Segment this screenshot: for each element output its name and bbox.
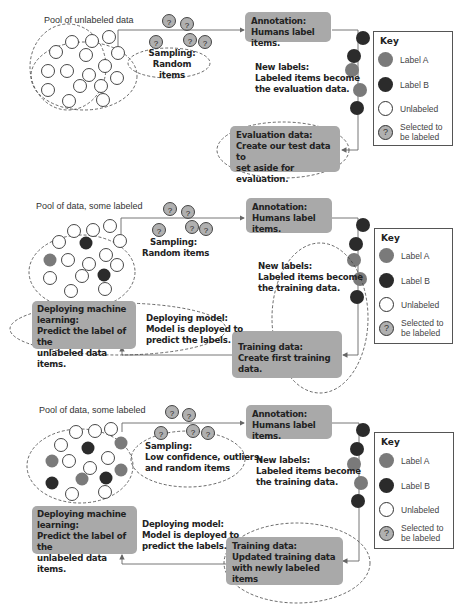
evaluation-title: Evaluation data: [236, 130, 334, 141]
selected-items: ? ? ? ? ? [155, 406, 215, 440]
svg-text:?: ? [167, 18, 172, 27]
new-labels-line2: the evaluation data. [255, 84, 360, 95]
new-labels-text: New labels: Labeled items become the tra… [258, 261, 363, 294]
svg-text:?: ? [154, 39, 159, 48]
deploy-model-text: Deploying model: Model is deployed to pr… [142, 519, 239, 552]
key-item-selected: ?Selected tobe labeled [378, 122, 443, 142]
new-labels-text: New labels: Labeled items become the tra… [256, 455, 361, 488]
sampling-title: Sampling: [142, 48, 202, 59]
label-b-icon [379, 478, 394, 493]
new-labels-text: New labels: Labeled items become the eva… [255, 62, 360, 95]
key-item-unlabeled: Unlabeled [378, 101, 438, 116]
deploy-model-line1: Model is deployed to [142, 530, 239, 541]
selected-items: ? ? ? ? ? [150, 15, 212, 49]
annotation-box: Annotation: Humans label items. [246, 198, 332, 233]
key-item-label-b: Label B [379, 273, 430, 288]
svg-text:?: ? [190, 224, 195, 233]
label-a-icon [379, 248, 394, 263]
key-label-line2: be labeled [400, 132, 439, 142]
svg-text:?: ? [168, 206, 173, 215]
key-item-selected: ?Selected tobe labeled [379, 318, 444, 338]
deploy-ml-line3: unlabeled data items. [37, 348, 131, 370]
label-a-icon [379, 453, 394, 468]
svg-text:?: ? [206, 430, 211, 439]
annotation-box: Annotation: Humans label items. [246, 405, 332, 439]
pool-label: Pool of data, some labeled [36, 201, 143, 211]
deploy-ml-line1: learning: [37, 315, 131, 326]
training-box: Training data: Create first training dat… [232, 331, 342, 378]
key-title: Key [380, 36, 399, 46]
svg-text:?: ? [186, 209, 191, 218]
svg-text:?: ? [157, 227, 162, 236]
training-line2: with newly labeled items [232, 563, 337, 585]
annotation-title: Annotation: [251, 16, 325, 27]
key-label: Selected tobe labeled [400, 122, 443, 142]
key-item-unlabeled: Unlabeled [379, 297, 439, 312]
sampling-line2: and random items [145, 463, 262, 474]
sampling-label: Sampling: Random items [142, 48, 202, 81]
arrow-pool-to-annotation [121, 218, 244, 235]
unlabeled-icon [379, 297, 394, 312]
annotation-title: Annotation: [252, 202, 326, 213]
deploy-ml-box: Deploying machine learning: Predict the … [32, 301, 136, 349]
key-item-label-b: Label B [378, 77, 429, 92]
svg-text:?: ? [204, 226, 209, 235]
key-legend: Key Label A Label B Unlabeled ?Selected … [374, 432, 454, 549]
key-label: Label B [400, 80, 429, 90]
key-label: Label A [401, 251, 429, 261]
deploy-model-line2: predict the labels. [146, 335, 243, 346]
new-labels-line1: Labeled items become [256, 466, 361, 477]
annotation-desc: Humans label items. [251, 27, 325, 49]
question-icon: ? [379, 321, 394, 336]
new-labels-title: New labels: [255, 62, 360, 73]
key-legend: Key Label A Label B Unlabeled ?Selected … [374, 228, 453, 344]
deploy-ml-line2: Predict the label of the [37, 326, 131, 348]
deploy-ml-box: Deploying machine learning: Predict the … [32, 506, 137, 554]
annotation-desc: Humans label items. [252, 213, 326, 235]
svg-text:?: ? [185, 21, 190, 30]
svg-text:?: ? [159, 430, 164, 439]
key-label: Selected tobe labeled [401, 523, 444, 543]
question-icon: ? [378, 125, 393, 140]
sampling-desc: Random items [142, 248, 209, 259]
new-labels-line1: Labeled items become [258, 272, 363, 283]
deploy-model-title: Deploying model: [142, 519, 239, 530]
arrow-pool-to-annotation [118, 30, 244, 47]
new-labels-line1: Labeled items become [255, 73, 360, 84]
key-label: Selected tobe labeled [401, 318, 444, 338]
training-title: Training data: [238, 342, 336, 353]
svg-text:?: ? [191, 428, 196, 437]
evaluation-line2: set aside for evaluation. [236, 163, 334, 185]
pool-label: Pool of unlabeled data [44, 15, 134, 25]
training-title: Training data: [232, 541, 337, 552]
arrow-training-to-deploy [122, 347, 243, 355]
label-b-icon [379, 273, 394, 288]
deploy-model-text: Deploying model: Model is deployed to pr… [146, 313, 243, 346]
annotation-title: Annotation: [252, 409, 326, 420]
training-box: Training data: Updated training data wit… [226, 537, 343, 585]
deploy-ml-line3: unlabeled data items. [37, 553, 132, 575]
evaluation-box: Evaluation data: Create our test data to… [230, 126, 340, 172]
key-legend: Key Label A Label B Unlabeled ?Selected … [373, 31, 453, 146]
unlabeled-icon [378, 101, 393, 116]
new-labels-title: New labels: [256, 455, 361, 466]
deploy-model-title: Deploying model: [146, 313, 243, 324]
sampling-label: Sampling: Random items [142, 237, 209, 259]
key-title: Key [381, 437, 400, 447]
deploy-model-line1: Model is deployed to [146, 324, 243, 335]
pool-items [55, 423, 118, 501]
key-label: Label B [401, 276, 430, 286]
key-item-label-b: Label B [379, 478, 430, 493]
selected-items: ? ? ? ? ? [153, 203, 213, 237]
key-item-label-a: Label A [379, 248, 429, 263]
sampling-title: Sampling: [142, 237, 209, 248]
question-icon: ? [379, 526, 394, 541]
key-label: Label A [401, 456, 429, 466]
deploy-ml-title: Deploying machine [37, 509, 132, 520]
key-label-line1: Selected to [400, 122, 443, 132]
sampling-line1: Low confidence, outliers, [145, 452, 262, 463]
annotation-box: Annotation: Humans label items. [245, 12, 331, 42]
svg-text:?: ? [187, 412, 192, 421]
key-label-line2: be labeled [401, 533, 440, 543]
sampling-title: Sampling: [145, 441, 262, 452]
